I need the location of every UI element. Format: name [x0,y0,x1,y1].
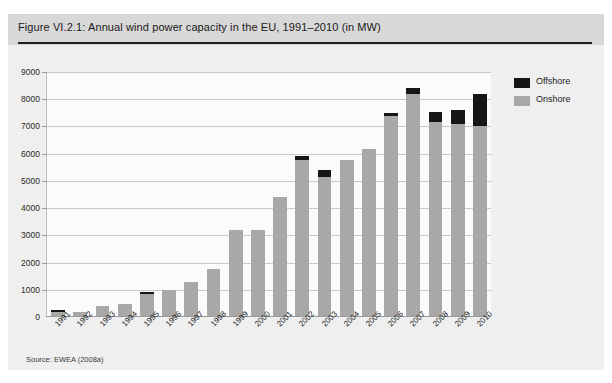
bar-group[interactable] [384,72,398,317]
bar-segment-onshore [273,197,287,317]
bar-segment-onshore [384,116,398,317]
bar-group[interactable] [229,72,243,317]
bar-segment-onshore [429,122,443,317]
bar-group[interactable] [207,72,221,317]
gridline [47,290,491,291]
gridline [47,99,491,100]
y-axis-tick-mark [42,99,47,100]
y-axis-tick-label: 3000 [4,230,40,240]
bar-segment-onshore [473,126,487,317]
bar-group[interactable] [118,72,132,317]
bar-segment-offshore [140,292,154,294]
bar-segment-onshore [362,149,376,317]
legend-item-label: Offshore [536,76,570,86]
header-divider [18,42,592,44]
bar-group[interactable] [251,72,265,317]
bar-segment-offshore [295,156,309,160]
y-axis-tick-mark [42,72,47,73]
source-note: Source: EWEA (2008a) [26,355,104,364]
y-axis-tick-label: 0 [4,312,40,322]
bar-segment-offshore [451,110,465,124]
bar-segment-onshore [451,124,465,317]
legend-item[interactable]: Onshore [514,94,600,109]
gridline [47,235,491,236]
bar-group[interactable] [273,72,287,317]
bar-segment-onshore [340,160,354,317]
bar-group[interactable] [96,72,110,317]
y-axis-tick-label: 8000 [4,94,40,104]
bar-segment-onshore [295,160,309,317]
bar-group[interactable] [318,72,332,317]
y-axis-tick-mark [42,154,47,155]
chart-plot-area [46,72,491,317]
bar-segment-offshore [406,88,420,94]
bar-group[interactable] [406,72,420,317]
legend-item[interactable]: Offshore [514,76,600,91]
bar-segment-offshore [473,94,487,127]
y-axis-tick-mark [42,208,47,209]
legend-swatch-icon [514,78,530,88]
gridline [47,154,491,155]
bar-segment-offshore [318,170,332,177]
bar-group[interactable] [184,72,198,317]
bar-group[interactable] [162,72,176,317]
y-axis-tick-mark [42,290,47,291]
bar-segment-onshore [318,177,332,317]
bar-group[interactable] [451,72,465,317]
y-axis-tick-label: 4000 [4,203,40,213]
y-axis-tick-label: 1000 [4,285,40,295]
y-axis-tick-label: 9000 [4,67,40,77]
bar-segment-onshore [251,230,265,317]
bar-group[interactable] [429,72,443,317]
gridline [47,263,491,264]
bar-group[interactable] [362,72,376,317]
gridline [47,72,491,73]
bar-segment-onshore [207,269,221,317]
bar-segment-onshore [229,230,243,317]
gridline [47,126,491,127]
y-axis-tick-label: 5000 [4,176,40,186]
figure-title: Figure VI.2.1: Annual wind power capacit… [18,21,381,33]
bar-group[interactable] [340,72,354,317]
bar-group[interactable] [73,72,87,317]
gridline [47,208,491,209]
chart-legend: OffshoreOnshore [514,76,600,112]
legend-swatch-icon [514,96,530,106]
bar-group[interactable] [140,72,154,317]
bar-segment-offshore [429,112,443,123]
y-axis-tick-label: 2000 [4,258,40,268]
y-axis-tick-mark [42,126,47,127]
bar-group[interactable] [295,72,309,317]
bar-segment-offshore [384,113,398,116]
y-axis-tick-mark [42,235,47,236]
y-axis-tick-mark [42,263,47,264]
bar-group[interactable] [473,72,487,317]
figure-container: Figure VI.2.1: Annual wind power capacit… [0,0,612,383]
y-axis-tick-mark [42,181,47,182]
bar-segment-onshore [406,94,420,317]
gridline [47,181,491,182]
bar-group[interactable] [51,72,65,317]
y-axis-tick-label: 6000 [4,149,40,159]
legend-item-label: Onshore [536,94,571,104]
y-axis-tick-label: 7000 [4,121,40,131]
